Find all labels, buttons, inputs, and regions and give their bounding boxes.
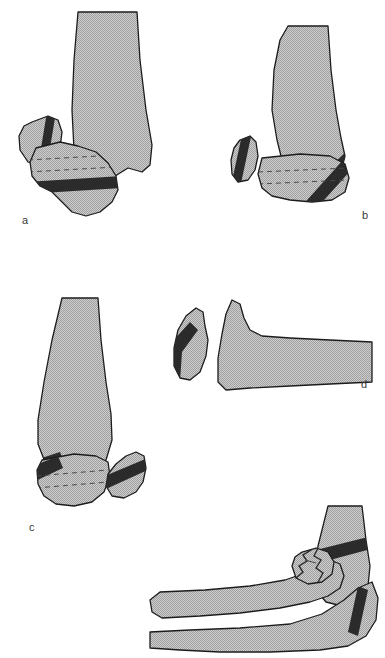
panel-label-d: d [361,379,367,390]
panel-b-condyle [258,150,360,218]
panel-d-detached-fragment [170,308,208,382]
panel-e [150,506,378,652]
panel-label-c: c [29,522,35,533]
panel-b [231,26,360,218]
panel-label-b: b [362,210,368,221]
panel-d-humeral-shaft [218,300,372,390]
bone-fracture-illustration [0,0,385,658]
panel-b-medial-fragment [231,130,258,188]
panel-label-a: a [22,215,28,226]
panel-c-detached-fragment [100,452,152,498]
panel-d [170,300,372,390]
panel-c-condyle [28,454,110,506]
panel-c-humeral-shaft [30,298,112,478]
panel-a [19,12,152,216]
figure-root: a b c d [0,0,385,658]
panel-c [28,298,152,506]
